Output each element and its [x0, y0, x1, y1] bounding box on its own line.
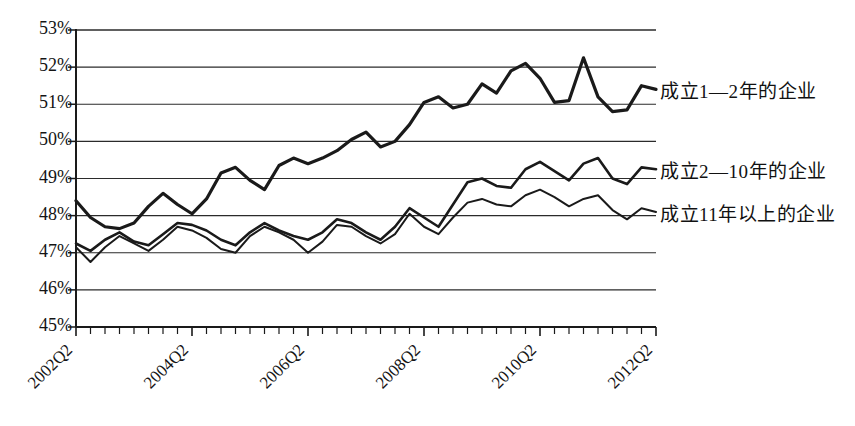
y-tick-label: 46% — [4, 278, 72, 299]
y-tick-label: 48% — [4, 204, 72, 225]
series-line-1 — [76, 58, 656, 229]
series-line-3 — [76, 190, 656, 262]
y-tick-label: 53% — [4, 18, 72, 39]
y-tick-label: 52% — [4, 55, 72, 76]
series-label-1: 成立1—2年的企业 — [660, 76, 817, 103]
y-tick-label: 50% — [4, 129, 72, 150]
x-tick-marks-group — [76, 327, 656, 336]
y-tick-label: 47% — [4, 241, 72, 262]
series-label-3: 成立11年以上的企业 — [660, 199, 835, 226]
y-tick-label: 49% — [4, 167, 72, 188]
y-tick-label: 51% — [4, 92, 72, 113]
y-tick-label: 45% — [4, 315, 72, 336]
chart-figure: 53%52%51%50%49%48%47%46%45% 2002Q22004Q2… — [0, 0, 855, 426]
series-lines-group — [76, 58, 656, 262]
series-label-2: 成立2—10年的企业 — [660, 156, 827, 183]
